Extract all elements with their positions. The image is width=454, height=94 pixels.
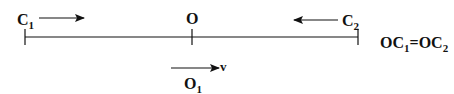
equation-equals: = <box>410 34 419 51</box>
label-o1-subscript: 1 <box>196 83 202 94</box>
label-c1: C1 <box>17 12 34 28</box>
equation-right-base: OC <box>419 34 443 51</box>
equation: OC1=OC2 <box>380 35 448 51</box>
label-c2: C2 <box>342 13 359 29</box>
diagram: C1 O C2 v O1 OC1=OC2 <box>0 0 454 94</box>
label-v: v <box>220 59 227 74</box>
label-o-base: O <box>186 10 198 27</box>
label-velocity: v <box>220 60 227 73</box>
label-o1-base: O <box>184 75 196 92</box>
label-c1-subscript: 1 <box>29 19 35 31</box>
equation-left-base: OC <box>380 34 404 51</box>
equation-left-subscript: 1 <box>404 42 410 54</box>
label-c1-base: C <box>17 11 29 28</box>
label-o: O <box>186 11 198 27</box>
label-c2-subscript: 2 <box>354 20 360 32</box>
label-o1: O1 <box>184 76 202 92</box>
label-c2-base: C <box>342 12 354 29</box>
equation-right-subscript: 2 <box>443 42 449 54</box>
